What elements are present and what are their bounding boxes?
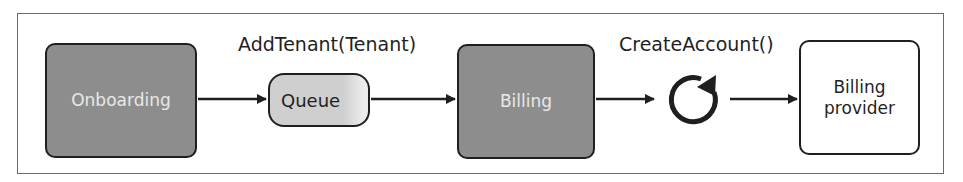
- connector-arrows: [0, 0, 963, 182]
- refresh-cycle-icon: [671, 75, 716, 122]
